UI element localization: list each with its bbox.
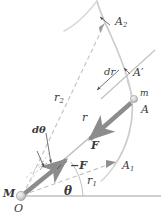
label-r: r — [82, 112, 87, 123]
prime-mark: ′ — [141, 66, 144, 79]
physics-figure: A2 dr A′ m A r2 r dθ F −F A1 r1 θ M O — [0, 0, 167, 220]
label-A1-subscript: 1 — [130, 165, 134, 173]
label-A2-text: A — [115, 15, 123, 28]
label-minus-F-text: −F — [70, 159, 87, 172]
force-F-arrow-group — [90, 103, 131, 139]
label-A-prime: A′ — [133, 67, 143, 78]
label-F: F — [91, 140, 99, 151]
radius-r2-arrowhead — [99, 23, 105, 33]
force-minus-F-arrow-group — [24, 160, 66, 194]
label-M: M — [3, 188, 15, 199]
force-minus-F-arrow — [24, 160, 66, 194]
label-O: O — [14, 203, 23, 214]
dtheta-construction-line-2 — [26, 160, 44, 178]
label-A1-text: A — [122, 159, 130, 172]
label-A-text: A — [141, 103, 149, 116]
label-r2: r2 — [54, 92, 64, 105]
mass-m-sphere — [130, 95, 137, 102]
orbit-curve-upper-branch — [64, 1, 97, 31]
label-r1: r1 — [87, 175, 97, 188]
label-A1: A1 — [122, 160, 134, 173]
label-A: A — [141, 104, 149, 115]
label-r-text: r — [82, 111, 87, 124]
radius-r2-line — [23, 25, 104, 195]
force-F-arrow — [90, 103, 131, 139]
orbit-curve-lower-branch — [101, 166, 114, 181]
label-minus-F: −F — [70, 160, 87, 171]
label-dr: dr — [104, 67, 115, 77]
label-d-theta: dθ — [32, 125, 46, 135]
label-M-text: M — [3, 187, 15, 200]
label-theta: θ — [64, 185, 72, 197]
label-m-text: m — [140, 88, 149, 98]
label-theta-text: θ — [64, 184, 72, 198]
label-r2-subscript: 2 — [59, 97, 63, 105]
label-A2: A2 — [115, 16, 127, 29]
label-d-theta-text: dθ — [32, 124, 46, 135]
label-m: m — [140, 89, 149, 98]
label-A-prime-text: A — [133, 66, 141, 79]
label-O-text: O — [14, 202, 23, 215]
label-dr-text: dr — [104, 66, 115, 77]
dtheta-leader-group — [37, 133, 51, 167]
label-r1-subscript: 1 — [92, 180, 96, 188]
label-F-text: F — [91, 139, 99, 152]
mass-M-sphere — [16, 191, 25, 200]
label-A2-subscript: 2 — [123, 21, 127, 29]
